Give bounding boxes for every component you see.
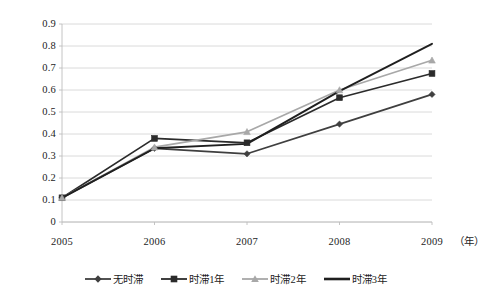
series-line <box>62 94 432 197</box>
legend-swatch-triangle-icon <box>241 273 269 285</box>
legend-label: 时滞1年 <box>189 274 224 285</box>
legend-label: 无时滞 <box>113 274 143 285</box>
series-line <box>62 44 432 198</box>
legend-item[interactable]: 无时滞 <box>84 273 143 285</box>
data-point-marker <box>429 91 435 97</box>
y-axis-tick-label: 0.8 <box>16 41 56 52</box>
y-axis-tick-label: 0.3 <box>16 151 56 162</box>
legend-item[interactable]: 时滞2年 <box>241 273 305 285</box>
legend-item[interactable]: 时滞1年 <box>160 273 224 285</box>
x-axis-tick-label: 2009 <box>406 236 458 247</box>
y-axis-tick-label: 0.7 <box>16 63 56 74</box>
x-axis-tick-label: 2007 <box>221 236 273 247</box>
data-point-marker <box>244 140 250 146</box>
chart-legend: 无时滞时滞1年时滞2年时滞3年 <box>0 268 471 290</box>
data-point-marker <box>336 121 342 127</box>
legend-swatch-none-icon <box>323 273 351 285</box>
gridlines <box>62 24 432 222</box>
legend-label: 时滞3年 <box>352 274 387 285</box>
x-axis-tick-label: 2005 <box>36 236 88 247</box>
legend-item[interactable]: 时滞3年 <box>323 273 387 285</box>
series-markers <box>59 57 436 201</box>
x-axis-tick-label: 2008 <box>314 236 366 247</box>
series-line <box>62 74 432 198</box>
series-lines <box>62 44 432 198</box>
y-axis-tick-label: 0.9 <box>16 19 56 30</box>
y-axis-tick-label: 0 <box>16 217 56 228</box>
legend-label: 时滞2年 <box>270 274 305 285</box>
y-axis-tick-label: 0.5 <box>16 107 56 118</box>
legend-swatch-square-icon <box>160 273 188 285</box>
data-point-marker <box>429 57 436 63</box>
legend-swatch-diamond-icon <box>84 273 112 285</box>
axis-ticks <box>59 24 432 225</box>
y-axis-tick-label: 0.2 <box>16 173 56 184</box>
y-axis-tick-label: 0.4 <box>16 129 56 140</box>
x-axis-unit-label: （年） <box>454 236 482 247</box>
y-axis-tick-label: 0.6 <box>16 85 56 96</box>
data-point-marker <box>152 136 158 142</box>
data-point-marker <box>337 95 343 101</box>
y-axis-tick-label: 0.1 <box>16 195 56 206</box>
x-axis-tick-label: 2006 <box>129 236 181 247</box>
data-point-marker <box>429 71 435 77</box>
